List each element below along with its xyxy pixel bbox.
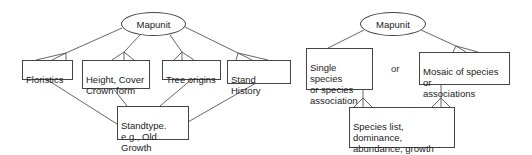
single-species-node: Single species or species association <box>306 48 373 90</box>
species-list-node: Species list, dominance, abundance, grow… <box>349 107 455 148</box>
tree-origins-node: Tree origins <box>162 60 221 80</box>
stand-history-node: Stand History <box>227 60 291 84</box>
or-separator: or <box>391 63 399 74</box>
height-cover-node: Height, Cover Crown form <box>82 60 150 89</box>
stand-history-label: Stand History <box>231 74 261 96</box>
species-list-label: Species list, dominance, abundance, grow… <box>353 121 434 155</box>
left-mapunit-label: Mapunit <box>137 19 171 30</box>
mosaic-node: Mosaic of species or associations <box>419 52 510 85</box>
right-mapunit-label: Mapunit <box>376 19 410 30</box>
single-species-label: Single species or species association <box>310 62 358 106</box>
floristics-label: Floristics <box>26 74 63 85</box>
left-mapunit-node: Mapunit <box>121 12 186 36</box>
tree-origins-label: Tree origins <box>166 74 216 85</box>
standtype-node: Standtype. e.g., Old Growth <box>117 106 189 140</box>
right-mapunit-node: Mapunit <box>360 12 426 36</box>
floristics-node: Floristics <box>22 60 73 80</box>
